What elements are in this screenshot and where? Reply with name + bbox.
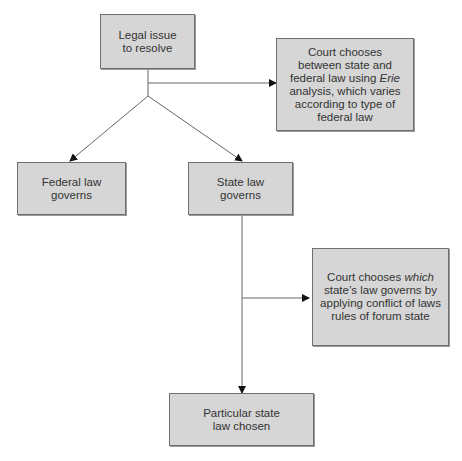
node-text: analysis, which varies	[289, 85, 400, 97]
node-text: governs	[51, 189, 92, 201]
node-legal-issue: Legal issue to resolve	[100, 14, 195, 69]
arrow-to-federal	[70, 96, 148, 161]
node-text: Legal issue	[118, 29, 176, 41]
node-federal-law: Federal law governs	[17, 162, 126, 215]
node-text: governs	[220, 189, 261, 201]
node-text: applying conflict of laws	[320, 297, 441, 309]
node-text: rules of forum state	[331, 310, 429, 322]
node-text: law chosen	[213, 420, 271, 432]
node-text: according to type of	[295, 98, 395, 110]
node-text: to resolve	[123, 42, 173, 54]
node-erie-analysis: Court chooses between state and federal …	[276, 38, 414, 131]
node-text: between state and	[298, 59, 392, 71]
node-text: Federal law	[42, 176, 101, 188]
node-conflict-of-laws: Court chooses which state’s law governs …	[312, 248, 449, 346]
node-text: state’s law governs by	[324, 284, 437, 296]
node-text: State law	[217, 176, 264, 188]
node-text: Court chooses	[308, 46, 382, 58]
node-text: federal law	[317, 111, 373, 123]
arrow-to-state	[148, 96, 242, 161]
node-particular-state: Particular state law chosen	[169, 393, 314, 446]
flowchart: Legal issue to resolve Court chooses bet…	[0, 0, 462, 461]
node-text: federal law using	[290, 72, 380, 84]
node-text-italic: which	[404, 271, 433, 283]
node-text: Particular state	[203, 407, 280, 419]
node-text: Court chooses	[327, 271, 404, 283]
node-text-italic: Erie	[380, 72, 400, 84]
node-state-law: State law governs	[188, 162, 293, 215]
